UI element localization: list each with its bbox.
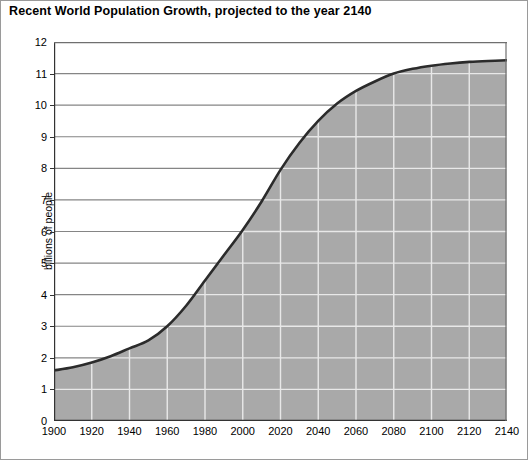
y-tick-label: 0	[1, 415, 47, 427]
y-tick-label: 11	[1, 68, 47, 80]
y-tick-label: 5	[1, 257, 47, 269]
y-tick-label: 9	[1, 131, 47, 143]
x-tick-label: 1900	[24, 425, 84, 437]
y-tick-label: 12	[1, 36, 47, 48]
y-tick-label: 2	[1, 352, 47, 364]
y-tick-label: 8	[1, 162, 47, 174]
chart-title: Recent World Population Growth, projecte…	[9, 4, 372, 18]
x-tick-label: 2040	[288, 425, 348, 437]
chart-figure: Recent World Population Growth, projecte…	[0, 0, 528, 460]
x-tick-label: 1940	[100, 425, 160, 437]
x-tick-label: 2020	[251, 425, 311, 437]
x-tick-label: 1980	[175, 425, 235, 437]
x-tick-label: 2120	[439, 425, 499, 437]
x-tick-label: 2140	[477, 425, 528, 437]
x-tick-label: 2080	[364, 425, 424, 437]
y-axis-label: billions of people	[42, 192, 54, 270]
x-tick-label: 2000	[213, 425, 273, 437]
x-tick-label: 2060	[326, 425, 386, 437]
y-tick-label: 1	[1, 383, 47, 395]
y-tick-label: 6	[1, 226, 47, 238]
plot-area	[54, 42, 507, 421]
y-tick-label: 4	[1, 289, 47, 301]
x-tick-label: 1920	[62, 425, 122, 437]
y-tick-label: 10	[1, 99, 47, 111]
x-tick-label: 2100	[402, 425, 462, 437]
plot-svg	[54, 42, 507, 421]
x-tick-label: 1960	[137, 425, 197, 437]
y-tick-label: 7	[1, 194, 47, 206]
y-tick-label: 3	[1, 320, 47, 332]
